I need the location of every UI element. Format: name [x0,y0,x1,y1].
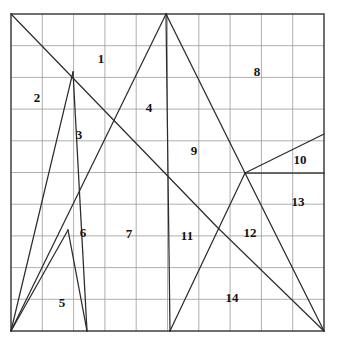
region-label-6: 6 [80,226,87,239]
region-label-10: 10 [294,153,307,166]
cross-to-bottom-right [219,229,324,331]
region-label-5: 5 [59,296,66,309]
region-label-14: 14 [226,291,239,304]
region-label-3: 3 [76,128,83,141]
bottomleft-to-lowerleft-junction [11,230,68,331]
hub-to-bottom-right [245,173,324,331]
region-label-13: 13 [292,195,305,208]
region-label-1: 1 [98,52,105,65]
figure-canvas: 1234567891011121314 [0,0,339,349]
dissection-diagram [0,0,339,349]
region-label-9: 9 [191,144,198,157]
region-label-12: 12 [244,226,257,239]
region-label-2: 2 [34,91,41,104]
hub-to-bottom-mid [170,173,245,331]
region-label-11: 11 [181,229,193,242]
apex-to-hub [166,14,245,173]
region-label-7: 7 [126,227,133,240]
region-label-8: 8 [254,65,261,78]
hub-to-right-upper [245,134,324,173]
region-label-4: 4 [146,101,153,114]
